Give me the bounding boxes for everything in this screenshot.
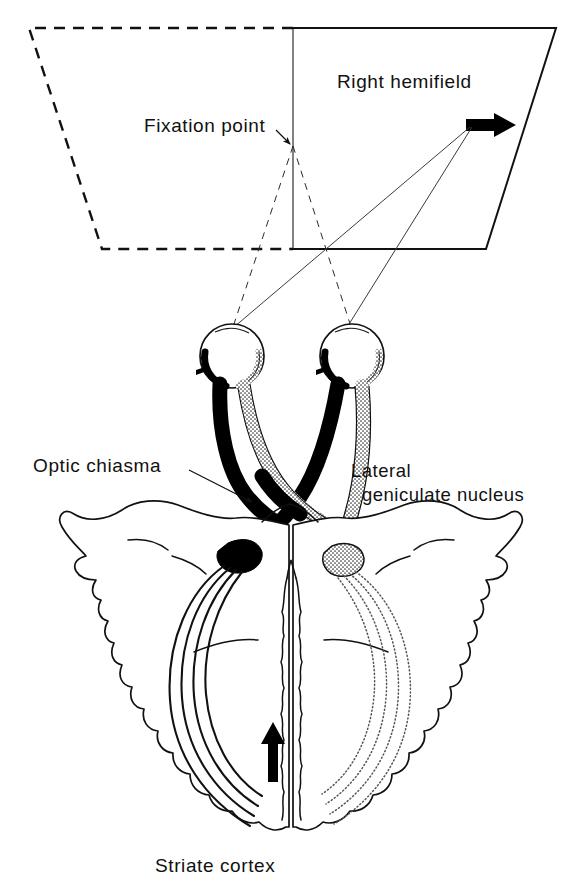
visual-pathway-diagram: Right hemifield Fixation point [0, 0, 578, 896]
optic-chiasma-label: Optic chiasma [33, 455, 161, 476]
right-lgn-body [323, 544, 364, 577]
right-eye [316, 324, 384, 388]
visual-field-plane [29, 28, 556, 249]
figure-root: Right hemifield Fixation point [0, 0, 578, 896]
target-ray-to-right-eye [336, 127, 472, 345]
left-hemifield-dashed-outline [29, 28, 293, 249]
left-eye [196, 324, 264, 388]
brain-cortex-outline [60, 501, 522, 830]
lgn-label-line1: Lateral [351, 460, 411, 481]
right-lateral-geniculate-nucleus [323, 544, 364, 577]
fixation-point-label: Fixation point [144, 115, 266, 136]
fixation-point-leader-icon [276, 130, 290, 144]
target-ray-to-left-eye [214, 127, 470, 344]
striate-cortex-label: Striate cortex [155, 855, 275, 876]
right-hemifield-label: Right hemifield [337, 71, 472, 92]
right-hemifield-solid-outline [293, 28, 556, 249]
target-rays [214, 127, 472, 345]
fixation-ray-to-right-eye [293, 146, 352, 330]
fixation-rays [232, 146, 352, 330]
target-arrow-icon [466, 113, 516, 137]
